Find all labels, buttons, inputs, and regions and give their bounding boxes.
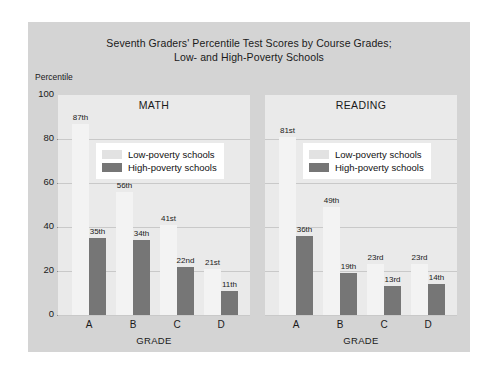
y-tick-label: 40 [28,220,54,231]
legend-swatch-low-poverty-icon [309,150,329,159]
chart-figure: Seventh Graders' Percentile Test Scores … [28,22,470,352]
bar-value-label: 36th [285,225,325,234]
bar [221,291,238,315]
bar-value-label: 19th [329,262,369,271]
x-tick-label: D [201,319,241,330]
legend-label-high-poverty: High-poverty schools [335,162,424,173]
bar-value-label: 87th [61,113,101,122]
bar [384,286,401,315]
legend-label-low-poverty: Low-poverty schools [128,149,215,160]
bar-group: 81st36th [279,95,313,315]
bar-value-label: 49th [312,196,352,205]
bar [133,240,150,315]
chart-title-line-1: Seventh Graders' Percentile Test Scores … [28,36,470,50]
bar [204,269,221,315]
bar-value-label: 81st [268,126,308,135]
y-axis-label: Percentile [35,72,73,82]
bar-value-label: 35th [78,227,118,236]
bar-value-label: 56th [105,181,145,190]
legend-label-low-poverty: Low-poverty schools [335,149,422,160]
panel-reading-bars: 81st36th49th19th23rd13rd23rd14th [265,95,457,315]
bar-value-label: 14th [417,273,457,282]
legend-swatch-low-poverty-icon [102,150,122,159]
legend-item-high-poverty: High-poverty schools [309,161,424,174]
panel-math: MATH 87th35th56th34th41st22nd21st11th [58,95,250,315]
bar [177,267,194,315]
x-tick-label: C [157,319,197,330]
gridline [265,315,457,316]
y-tick-label: 0 [28,308,54,319]
bar-group: 23rd13rd [367,95,401,315]
bar-group: 49th19th [323,95,357,315]
bar-value-label: 23rd [400,253,440,262]
gridline [58,315,250,316]
bar [72,124,89,315]
bar-group: 23rd14th [411,95,445,315]
legend-item-low-poverty: Low-poverty schools [102,148,217,161]
legend-math: Low-poverty schools High-poverty schools [96,143,224,179]
legend-swatch-high-poverty-icon [309,163,329,172]
bar-value-label: 34th [122,229,162,238]
bar-value-label: 13rd [373,275,413,284]
bar [367,264,384,315]
bar [428,284,445,315]
bar [323,207,340,315]
bar [160,225,177,315]
chart-title-line-2: Low- and High-Poverty Schools [28,50,470,64]
bar-group: 56th34th [116,95,150,315]
x-tick-label: D [408,319,448,330]
bar-group: 21st11th [204,95,238,315]
legend-item-high-poverty: High-poverty schools [102,161,217,174]
x-tick-label: B [113,319,153,330]
bar-value-label: 23rd [356,253,396,262]
bar [296,236,313,315]
bar-value-label: 11th [210,280,250,289]
bar [340,273,357,315]
x-tick-label: B [320,319,360,330]
x-tick-label: C [364,319,404,330]
bar-value-label: 41st [149,214,189,223]
panel-math-bars: 87th35th56th34th41st22nd21st11th [58,95,250,315]
y-tick-label: 20 [28,264,54,275]
panel-reading: READING 81st36th49th19th23rd13rd23rd14th [265,95,457,315]
y-tick-label: 100 [28,88,54,99]
legend-reading: Low-poverty schools High-poverty schools [303,143,431,179]
x-axis-label: GRADE [58,335,250,346]
bar-value-label: 21st [193,258,233,267]
legend-item-low-poverty: Low-poverty schools [309,148,424,161]
x-tick-label: A [69,319,109,330]
y-tick-label: 80 [28,132,54,143]
y-tick-label: 60 [28,176,54,187]
bar [116,192,133,315]
chart-title: Seventh Graders' Percentile Test Scores … [28,36,470,64]
bar [411,264,428,315]
legend-swatch-high-poverty-icon [102,163,122,172]
legend-label-high-poverty: High-poverty schools [128,162,217,173]
x-tick-label: A [276,319,316,330]
bar [89,238,106,315]
bar-group: 41st22nd [160,95,194,315]
bar-group: 87th35th [72,95,106,315]
x-axis-label: GRADE [265,335,457,346]
